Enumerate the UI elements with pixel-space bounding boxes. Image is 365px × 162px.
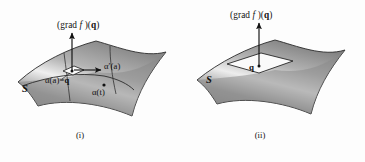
curve-label: α(t) (92, 88, 105, 97)
gradient-vector-label-ii: (grad f )(q) (230, 11, 273, 20)
surface-patch-i (18, 41, 166, 116)
figure-ii: (grad f )(q) q S (ii) (183, 0, 365, 162)
point-q-marker-i (71, 70, 74, 73)
gradient-vector-label-i: (grad f )(q) (57, 21, 100, 30)
caption-i: (i) (60, 130, 100, 140)
surface-label-i: S (22, 84, 28, 95)
figure-page: (grad f )(q) α′(a) α(a)=q α(t) S (i) (0, 0, 365, 162)
surface-patch-ii (197, 40, 345, 114)
point-label-q: q (249, 63, 254, 72)
figure-i: (grad f )(q) α′(a) α(a)=q α(t) S (i) (0, 0, 182, 162)
caption-ii: (ii) (240, 130, 280, 140)
surface-label-ii: S (206, 75, 212, 86)
point-q-marker-ii (258, 65, 261, 68)
tangent-vector-label: α′(a) (104, 62, 120, 71)
base-point-label: α(a)=q (45, 76, 69, 85)
point-symbol-q: q (64, 75, 69, 85)
